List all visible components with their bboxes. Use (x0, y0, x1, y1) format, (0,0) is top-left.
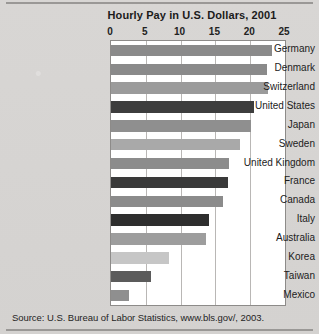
bottom-divider (6, 329, 313, 331)
x-axis-tick-labels: 0510152025 (0, 26, 319, 40)
x-tick-label-15: 15 (209, 26, 220, 37)
category-labels: GermanyDenmarkSwitzerlandUnited StatesJa… (0, 40, 319, 304)
x-tick-label-5: 5 (142, 26, 148, 37)
figure-panel: Hourly Pay in U.S. Dollars, 2001 0510152… (0, 0, 319, 334)
category-label-france: France (215, 176, 319, 186)
category-label-australia: Australia (215, 233, 319, 243)
category-label-sweden: Sweden (215, 139, 319, 149)
category-label-switzerland: Switzerland (215, 82, 319, 92)
source-note: Source: U.S. Bureau of Labor Statistics,… (12, 312, 264, 323)
category-label-italy: Italy (215, 214, 319, 224)
category-label-korea: Korea (215, 252, 319, 262)
category-label-mexico: Mexico (215, 290, 319, 300)
category-label-germany: Germany (215, 44, 319, 54)
category-label-united-states: United States (215, 101, 319, 111)
x-tick-label-10: 10 (174, 26, 185, 37)
category-label-taiwan: Taiwan (215, 271, 319, 281)
category-label-denmark: Denmark (215, 63, 319, 73)
category-label-united-kingdom: United Kingdom (215, 158, 319, 168)
x-tick-label-25: 25 (278, 26, 289, 37)
x-tick-label-0: 0 (107, 26, 113, 37)
category-label-canada: Canada (215, 195, 319, 205)
chart-title: Hourly Pay in U.S. Dollars, 2001 (92, 9, 292, 21)
top-divider (6, 2, 313, 4)
x-tick-label-20: 20 (244, 26, 255, 37)
category-label-japan: Japan (215, 120, 319, 130)
